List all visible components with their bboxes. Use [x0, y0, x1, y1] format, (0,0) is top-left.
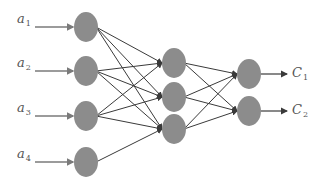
labels: a1a2a3a4C1C2: [17, 11, 308, 163]
input-neuron-2: [74, 56, 98, 86]
edge-hidden-3-output-2: [184, 111, 237, 129]
output-neuron-1: [237, 59, 261, 89]
hidden-neuron-1: [162, 48, 186, 78]
edge-input-4-hidden-3: [96, 129, 162, 162]
edge-hidden-2-output-1: [184, 74, 237, 97]
io-arrows: [35, 27, 287, 162]
input-label-4: a4: [17, 146, 31, 163]
edge-input-3-hidden-1: [96, 63, 162, 116]
edge-input-3-hidden-3: [96, 116, 162, 129]
input-label-1: a1: [17, 11, 31, 28]
hidden-neuron-2: [162, 82, 186, 112]
edge-input-2-hidden-2: [96, 71, 162, 97]
output-label-1: C1: [292, 65, 308, 82]
input-neuron-4: [74, 147, 98, 177]
neural-network-diagram: a1a2a3a4C1C2: [0, 0, 316, 186]
hidden-neuron-3: [162, 114, 186, 144]
input-label-3: a3: [17, 100, 31, 117]
input-label-2: a2: [17, 55, 31, 72]
edge-input-1-hidden-2: [96, 27, 162, 97]
edge-input-1-hidden-3: [96, 27, 162, 129]
edge-hidden-3-output-1: [184, 74, 237, 129]
edge-input-1-hidden-1: [96, 27, 162, 63]
input-neuron-3: [74, 101, 98, 131]
input-neuron-1: [74, 12, 98, 42]
edge-input-2-hidden-1: [96, 63, 162, 71]
edge-hidden-1-output-1: [184, 63, 237, 74]
output-neuron-2: [237, 96, 261, 126]
output-label-2: C2: [292, 102, 308, 119]
